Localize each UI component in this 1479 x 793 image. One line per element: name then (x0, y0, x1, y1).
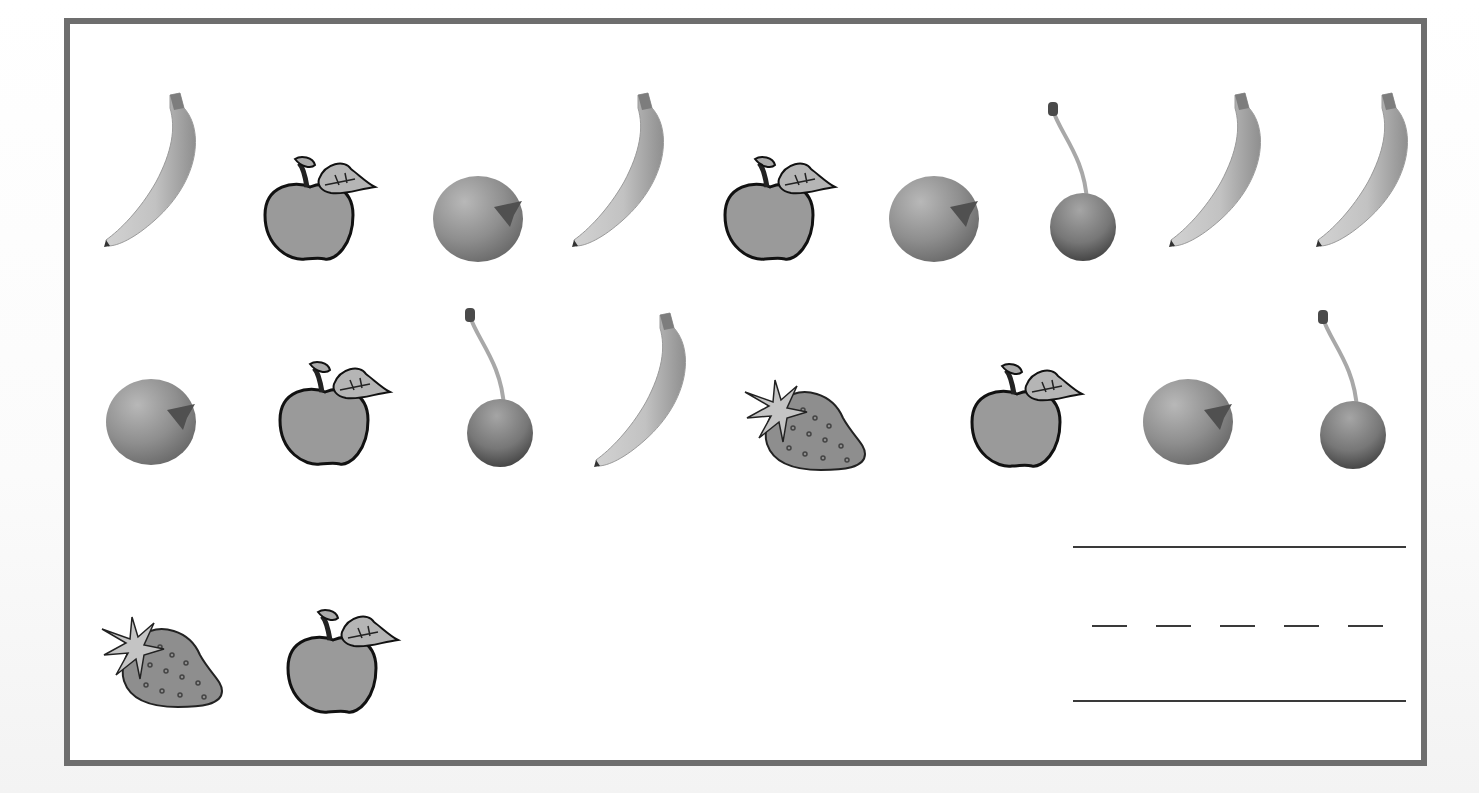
banana-icon (590, 310, 700, 470)
apple-icon (278, 608, 403, 718)
strawberry-icon (743, 378, 868, 473)
orange-icon (105, 378, 205, 468)
orange-icon (432, 175, 532, 265)
writing-line-middle-dash (1284, 625, 1319, 627)
orange-icon (1142, 378, 1242, 468)
cherry-icon (1045, 102, 1120, 262)
cherry-icon (462, 308, 537, 468)
writing-line-bottom (1073, 700, 1406, 702)
writing-line-middle-dash (1220, 625, 1255, 627)
apple-icon (962, 362, 1087, 472)
banana-icon (568, 90, 678, 250)
writing-line-middle-dash (1092, 625, 1127, 627)
cherry-icon (1315, 310, 1390, 470)
apple-icon (255, 155, 380, 265)
writing-line-middle-dash (1348, 625, 1383, 627)
writing-line-top (1073, 546, 1406, 548)
banana-icon (1165, 90, 1275, 250)
banana-icon (1312, 90, 1422, 250)
writing-line-middle-dash (1156, 625, 1191, 627)
orange-icon (888, 175, 988, 265)
apple-icon (270, 360, 395, 470)
strawberry-icon (100, 615, 225, 710)
banana-icon (100, 90, 210, 250)
apple-icon (715, 155, 840, 265)
